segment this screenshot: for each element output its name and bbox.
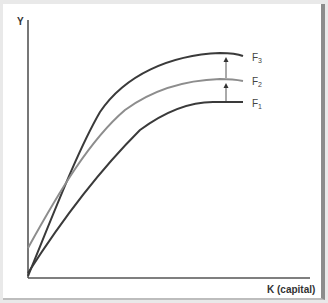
x-axis-label: K (capital) [267, 284, 315, 295]
label-f2: F2 [252, 76, 262, 88]
arrow-f1-to-f2 [224, 83, 229, 101]
curve-f3 [28, 53, 243, 276]
production-function-diagram: Y K (capital) F3 F2 F1 [0, 0, 328, 303]
curve-f2 [28, 79, 243, 248]
label-f3: F3 [252, 52, 262, 64]
curve-f1 [28, 102, 243, 273]
arrow-f2-to-f3 [224, 57, 229, 78]
y-axis-label: Y [17, 16, 24, 27]
label-f1: F1 [252, 98, 262, 110]
